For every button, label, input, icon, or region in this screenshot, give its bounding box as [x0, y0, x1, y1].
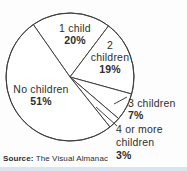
slice-label-text: 2: [84, 39, 136, 51]
footer-color-bar: [0, 167, 187, 171]
slice-label-3-children: 3 children 7%: [128, 97, 186, 121]
slice-label-4-or-more-children: 4 or more children 3%: [116, 123, 180, 162]
slice-label-text: children: [116, 136, 180, 149]
slice-label-text: 3 children: [128, 97, 186, 109]
slice-label-pct: 7%: [128, 109, 186, 121]
slice-label-pct: 19%: [84, 63, 136, 75]
source-line: Source: The Visual Almanac: [3, 154, 108, 163]
slice-label-text: 1 child: [44, 22, 106, 34]
slice-label-2-children: 2 children 19%: [84, 39, 136, 75]
pie-chart-figure: 1 child 20% 2 children 19% No children 5…: [0, 0, 187, 171]
slice-label-pct: 51%: [8, 95, 74, 107]
source-text: The Visual Almanac: [34, 154, 109, 163]
slice-label-pct: 3%: [116, 149, 180, 162]
slice-label-text: children: [84, 51, 136, 63]
slice-label-no-children: No children 51%: [8, 83, 74, 107]
slice-label-text: 4 or more: [116, 123, 180, 136]
slice-label-text: No children: [8, 83, 74, 95]
source-prefix: Source:: [3, 154, 34, 163]
